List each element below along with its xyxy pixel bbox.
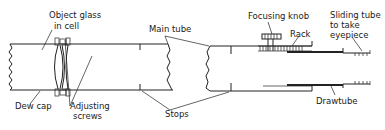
left-break-edge: [9, 44, 12, 90]
main-tube-right: [210, 41, 312, 91]
label-stops: Stops: [165, 109, 189, 119]
label-sliding-3: eyepiece: [330, 30, 368, 40]
main-tube-break: [140, 44, 210, 91]
middle-break-right: [206, 46, 210, 91]
label-focusing-knob: Focusing knob: [248, 11, 309, 21]
leader-object-glass: [42, 30, 52, 50]
label-main-tube: Main tube: [149, 24, 191, 34]
drawtube: [263, 48, 343, 88]
rack: [258, 46, 312, 51]
label-adjusting-1: Adjusting: [70, 101, 110, 111]
dew-cap-section: [9, 44, 173, 90]
label-dew-cap: Dew cap: [15, 101, 52, 111]
convex-lens: [55, 45, 59, 89]
label-sliding-1: Sliding tube: [330, 10, 381, 20]
leader-adjusting-2: [70, 56, 92, 106]
sliding-tube: [343, 50, 370, 85]
label-rack: Rack: [290, 29, 311, 39]
label-adjusting-2: screws: [73, 111, 103, 121]
label-sliding-2: to take: [330, 20, 360, 30]
label-object-glass-1: Object glass: [49, 10, 102, 20]
label-drawtube: Drawtube: [316, 96, 358, 106]
middle-break-left: [167, 44, 172, 90]
object-glass-cell: [55, 38, 71, 96]
label-object-glass-2: in cell: [54, 21, 79, 31]
telescope-diagram: Object glass in cell Dew cap Adjusting s…: [0, 0, 385, 130]
